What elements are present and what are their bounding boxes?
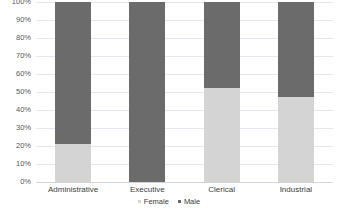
bar-group	[55, 2, 91, 182]
bar-stack	[129, 2, 165, 182]
bar-segment-female[interactable]	[278, 97, 314, 182]
chart-legend: FemaleMale	[0, 197, 338, 206]
bar-stack	[278, 2, 314, 182]
bar-segment-male[interactable]	[129, 2, 165, 182]
bar-segment-male[interactable]	[204, 2, 240, 88]
legend-item-female[interactable]: Female	[138, 197, 169, 206]
x-axis-category-label: Administrative	[36, 185, 110, 195]
bar-segment-female[interactable]	[55, 144, 91, 182]
legend-swatch-icon	[178, 200, 182, 204]
legend-swatch-icon	[138, 200, 142, 204]
plot-area	[36, 2, 333, 182]
y-axis-tick-label: 70%	[0, 52, 31, 60]
y-axis-tick-label: 10%	[0, 160, 31, 168]
bar-stack	[55, 2, 91, 182]
y-axis-tick-label: 30%	[0, 124, 31, 132]
gridline-0pct	[36, 182, 333, 183]
bar-group	[278, 2, 314, 182]
legend-item-male[interactable]: Male	[178, 197, 200, 206]
y-axis-tick-label: 60%	[0, 70, 31, 78]
y-axis-tick-label: 50%	[0, 88, 31, 96]
bar-segment-male[interactable]	[55, 2, 91, 144]
x-axis-category-label: Clerical	[185, 185, 259, 195]
y-axis-tick-label: 40%	[0, 106, 31, 114]
x-axis-category-label: Executive	[110, 185, 184, 195]
y-axis-tick-label: 0%	[0, 178, 31, 186]
bar-stack	[204, 2, 240, 182]
y-axis-tick-label: 20%	[0, 142, 31, 150]
bar-group	[204, 2, 240, 182]
y-axis-tick-label: 90%	[0, 16, 31, 24]
bar-group	[129, 2, 165, 182]
bar-segment-female[interactable]	[204, 88, 240, 182]
y-axis-tick-label: 80%	[0, 34, 31, 42]
x-axis-category-label: Industrial	[259, 185, 333, 195]
legend-label: Male	[184, 197, 200, 206]
stacked-bar-chart: FemaleMale 0%10%20%30%40%50%60%70%80%90%…	[0, 0, 338, 209]
legend-label: Female	[144, 197, 169, 206]
y-axis-tick-label: 100%	[0, 0, 31, 6]
bar-segment-male[interactable]	[278, 2, 314, 97]
